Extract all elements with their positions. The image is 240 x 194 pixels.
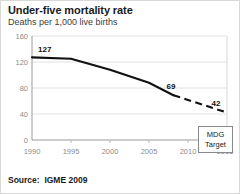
x-tick-2010: 2010	[180, 147, 197, 156]
data-label-42: 42	[212, 99, 221, 108]
chart-card: Under-five mortality rate Deaths per 1,0…	[0, 0, 240, 194]
mdg-target-line1: MDG	[207, 130, 225, 139]
y-tick-40: 40	[20, 110, 28, 119]
y-tick-0: 0	[24, 136, 28, 145]
data-label-127: 127	[38, 45, 52, 54]
chart-subtitle: Deaths per 1,000 live births	[8, 17, 118, 27]
y-tick-80: 80	[20, 84, 28, 93]
y-tick-120: 120	[15, 58, 28, 67]
x-tick-2000: 2000	[102, 147, 119, 156]
x-tick-2005: 2005	[141, 147, 158, 156]
source-label: Source:	[8, 175, 40, 185]
mdg-target-callout: MDG Target	[198, 126, 233, 153]
mdg-target-line2: Target	[205, 140, 226, 149]
page-title: Under-five mortality rate	[8, 4, 133, 16]
source-value: IGME 2009	[44, 175, 87, 185]
series-observed-line	[32, 57, 173, 95]
data-label-69: 69	[167, 82, 176, 91]
chart-plot-area: 160 120 80 40 0 1990 1995 2000 2005 2010…	[1, 29, 240, 169]
y-tick-160: 160	[15, 32, 28, 41]
y-axis-ticks: 160 120 80 40 0	[15, 32, 28, 145]
source-note: Source: IGME 2009	[8, 175, 87, 185]
x-tick-1995: 1995	[63, 147, 80, 156]
x-tick-1990: 1990	[24, 147, 41, 156]
